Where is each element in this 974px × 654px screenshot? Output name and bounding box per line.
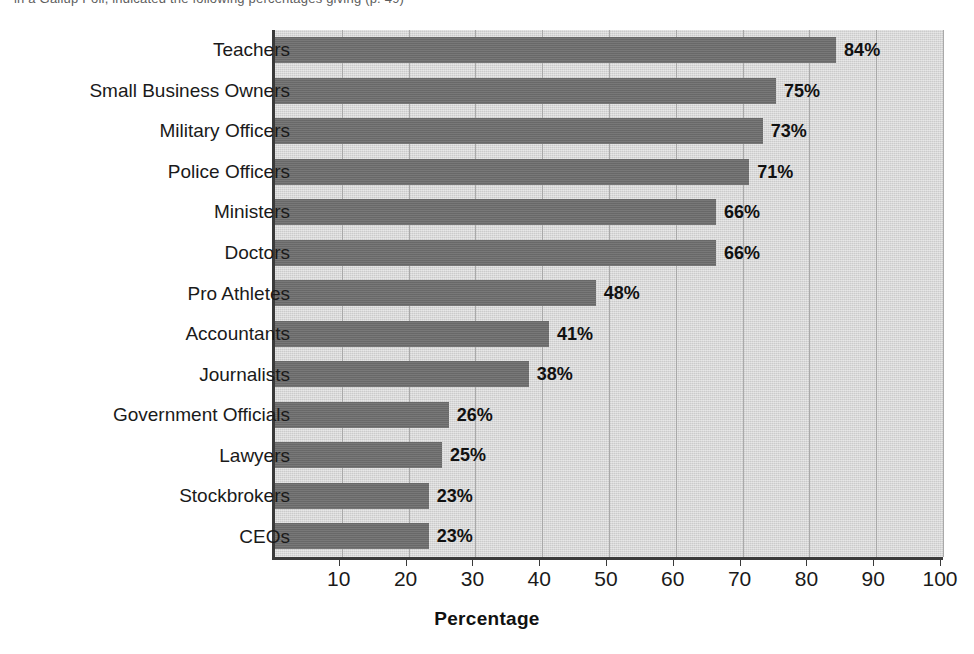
bar	[275, 199, 716, 225]
category-label: Police Officers	[10, 160, 290, 184]
category-label: Teachers	[10, 38, 290, 62]
category-label: Military Officers	[10, 119, 290, 143]
x-tick-label: 80	[776, 566, 836, 592]
bar-row: 26%	[275, 395, 943, 436]
category-label: Stockbrokers	[10, 484, 290, 508]
bar-value-label: 25%	[450, 443, 486, 467]
bar-value-label: 23%	[437, 484, 473, 508]
bar	[275, 523, 429, 549]
category-label: Government Officials	[10, 403, 290, 427]
bar-value-label: 48%	[604, 281, 640, 305]
bar	[275, 37, 836, 63]
category-label: Ministers	[10, 200, 290, 224]
bar-row: 23%	[275, 476, 943, 517]
bar-value-label: 66%	[724, 200, 760, 224]
bar-row: 41%	[275, 314, 943, 355]
bar	[275, 361, 529, 387]
plot-area: 84%75%73%71%66%66%48%41%38%26%25%23%23%	[272, 30, 943, 560]
bar-value-label: 38%	[537, 362, 573, 386]
bar-row: 66%	[275, 192, 943, 233]
bar-row: 66%	[275, 233, 943, 274]
bar-value-label: 71%	[757, 160, 793, 184]
bar-row: 71%	[275, 152, 943, 193]
bar-row: 25%	[275, 435, 943, 476]
x-tick-label: 70	[710, 566, 770, 592]
bar	[275, 402, 449, 428]
bar	[275, 280, 596, 306]
bar	[275, 159, 749, 185]
category-label: Lawyers	[10, 444, 290, 468]
caption-text: in a Gallup Poll, indicated the followin…	[14, 0, 404, 6]
bar-value-label: 73%	[771, 119, 807, 143]
x-tick-label: 10	[309, 566, 369, 592]
x-tick-label: 60	[643, 566, 703, 592]
bar	[275, 442, 442, 468]
x-tick-label: 30	[442, 566, 502, 592]
gridline-100	[943, 30, 944, 557]
bar-row: 84%	[275, 30, 943, 71]
category-label: Journalists	[10, 363, 290, 387]
bar-chart-figure: in a Gallup Poll, indicated the followin…	[0, 0, 974, 654]
x-tick-label: 40	[509, 566, 569, 592]
bar-value-label: 23%	[437, 524, 473, 548]
bar	[275, 118, 763, 144]
x-tick-label: 100	[910, 566, 970, 592]
bar-row: 73%	[275, 111, 943, 152]
category-label: Pro Athletes	[10, 282, 290, 306]
bar	[275, 321, 549, 347]
bar-value-label: 66%	[724, 241, 760, 265]
bar-row: 75%	[275, 71, 943, 112]
category-label: Small Business Owners	[10, 79, 290, 103]
bar	[275, 78, 776, 104]
bar-row: 23%	[275, 516, 943, 557]
bar-value-label: 26%	[457, 403, 493, 427]
bar-value-label: 84%	[844, 38, 880, 62]
bar-row: 38%	[275, 354, 943, 395]
category-label: Accountants	[10, 322, 290, 346]
bar-value-label: 41%	[557, 322, 593, 346]
clipped-caption-strip: in a Gallup Poll, indicated the followin…	[0, 0, 974, 14]
bar-row: 48%	[275, 273, 943, 314]
bar	[275, 240, 716, 266]
category-label: CEOs	[10, 525, 290, 549]
bar-value-label: 75%	[784, 79, 820, 103]
x-tick-label: 20	[376, 566, 436, 592]
x-axis-title: Percentage	[0, 608, 974, 630]
x-tick-label: 90	[843, 566, 903, 592]
category-label: Doctors	[10, 241, 290, 265]
x-tick-label: 50	[576, 566, 636, 592]
bar	[275, 483, 429, 509]
